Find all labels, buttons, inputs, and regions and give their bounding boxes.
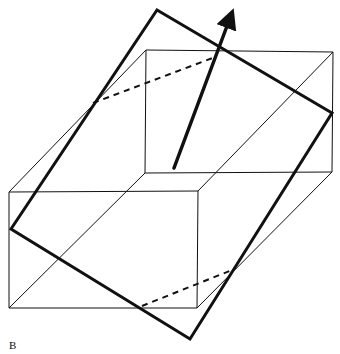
box-edge — [9, 50, 146, 192]
rectangular-box — [9, 50, 333, 308]
normal-vector-arrow — [174, 18, 230, 168]
plane-box-intersection-dashed-lines — [93, 57, 232, 306]
figure-label: B — [9, 339, 16, 351]
box-front-face — [9, 191, 198, 308]
box-edge — [197, 172, 332, 308]
box-connecting-edges — [9, 50, 333, 308]
diagram-canvas — [0, 0, 340, 354]
tilted-plane-square — [11, 10, 332, 339]
dashed-intersection-line — [142, 270, 232, 306]
